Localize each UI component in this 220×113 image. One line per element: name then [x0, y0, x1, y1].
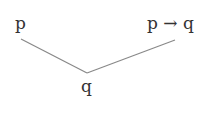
conclusion-q: q	[81, 78, 92, 95]
edge-premise-right	[87, 40, 175, 73]
edge-premise-left	[21, 39, 87, 73]
premise-p: p	[15, 15, 26, 32]
premise-p-implies-q: p → q	[147, 15, 194, 32]
